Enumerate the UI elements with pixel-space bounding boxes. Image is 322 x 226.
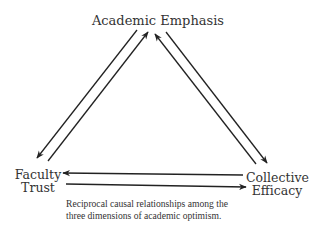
- arrow-efficacy-to-emphasis: [155, 34, 256, 164]
- arrow-trust-to-emphasis: [48, 32, 148, 161]
- caption-line1: Reciprocal causal relationships among th…: [66, 198, 228, 210]
- figure-caption: Reciprocal causal relationships among th…: [66, 198, 228, 222]
- arrow-efficacy-to-trust: [63, 173, 243, 175]
- node-collective-efficacy-line2: Efficacy: [246, 184, 308, 197]
- arrow-trust-to-efficacy: [66, 184, 246, 187]
- academic-optimism-diagram: Academic Emphasis Faculty Trust Collecti…: [0, 0, 322, 226]
- node-faculty-trust: Faculty Trust: [10, 168, 66, 194]
- node-collective-efficacy: Collective Efficacy: [246, 171, 308, 197]
- node-faculty-trust-line2: Trust: [10, 181, 66, 194]
- arrow-emphasis-to-efficacy: [166, 32, 267, 163]
- node-academic-emphasis: Academic Emphasis: [90, 14, 226, 27]
- node-academic-emphasis-label: Academic Emphasis: [92, 13, 224, 28]
- arrow-emphasis-to-trust: [37, 30, 137, 158]
- caption-line2: three dimensions of academic optimism.: [66, 210, 228, 222]
